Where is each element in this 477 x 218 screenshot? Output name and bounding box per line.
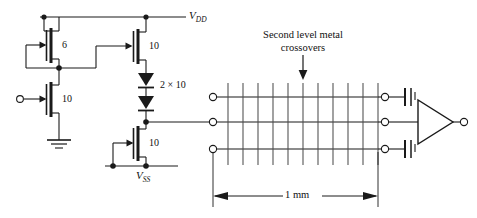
m1-size-label: 6 [62, 40, 67, 50]
left-terminal-top [209, 93, 216, 100]
m3-size-label: 10 [149, 41, 159, 51]
left-terminal-mid [209, 118, 216, 125]
dim-arrow-left [213, 192, 228, 200]
load-capacitor-bottom [389, 140, 415, 158]
diode-1-triangle [138, 73, 154, 86]
transistor-m3-pullup [134, 17, 147, 73]
vss-node-left [110, 163, 116, 169]
m4-gate-arrow [127, 140, 134, 147]
transistor-m2-input [17, 68, 59, 140]
schematic-canvas [0, 0, 477, 218]
output-terminal [460, 118, 467, 125]
dim-arrow-right [363, 192, 378, 200]
crossover-annotation-line1: Second level metal [243, 30, 363, 41]
transistor-m1-load [26, 17, 59, 68]
m2-size-label: 10 [62, 94, 72, 104]
load-capacitor-top [389, 88, 415, 106]
output-inverter [389, 100, 468, 144]
metal-crossovers [228, 83, 378, 165]
m3-gate-arrow [126, 43, 133, 50]
m4-size-label: 10 [149, 138, 159, 148]
diode-stack [138, 73, 154, 122]
dimension-label: 1 mm [285, 190, 309, 201]
input-terminal [17, 96, 24, 103]
diode-stack-label: 2 × 10 [160, 80, 186, 90]
diode-2-triangle [138, 96, 154, 109]
right-terminals [378, 93, 389, 152]
vss-rail [105, 163, 178, 169]
vss-label: VSS [136, 170, 150, 184]
transistor-m4-pulldown [113, 122, 146, 166]
m1-gate-arrow [40, 42, 47, 49]
right-terminal-top [381, 93, 388, 100]
right-terminal-mid [381, 118, 388, 125]
left-terminals [209, 93, 216, 152]
crossover-annotation-arrow [299, 55, 308, 80]
vdd-label: VDD [189, 10, 207, 24]
m2-gate-arrow [40, 96, 47, 103]
vdd-rail [40, 14, 186, 19]
interconnect-rails [216, 97, 378, 149]
ground-symbol [47, 140, 71, 148]
wire-stage1-to-m3gate [59, 43, 133, 68]
crossover-annotation-line2: crossovers [243, 43, 363, 54]
left-terminal-bottom [209, 145, 216, 152]
circuit-figure: VDD VSS 6 10 10 10 2 × 10 Second level m… [0, 0, 477, 218]
vss-node-right [143, 163, 149, 169]
right-terminal-bottom [381, 145, 388, 152]
inverter-triangle [418, 100, 453, 144]
